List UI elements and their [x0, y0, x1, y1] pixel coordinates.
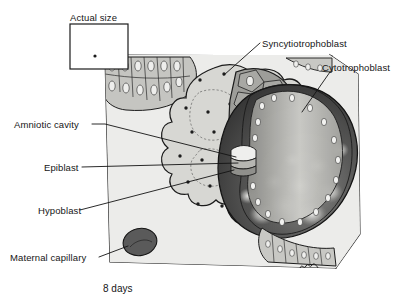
label-amniotic-cavity: Amniotic cavity — [14, 119, 79, 130]
label-epiblast: Epiblast — [44, 162, 79, 173]
label-syncytiotrophoblast: Syncytiotrophoblast — [262, 38, 347, 49]
label-hypoblast: Hypoblast — [38, 205, 81, 216]
figure-caption: 8 days — [103, 283, 132, 294]
actual-size-title: Actual size — [70, 12, 117, 23]
actual-size-dot-icon — [93, 54, 96, 57]
embryonic-disc — [231, 146, 256, 177]
amniotic-cavity-space — [231, 146, 256, 162]
actual-size-inset — [70, 24, 128, 69]
actual-size-box — [70, 24, 128, 69]
implantation-figure: Actual size Syncytiotrophoblast Cytotrop… — [0, 0, 414, 302]
label-cytotrophoblast: Cytotrophoblast — [322, 62, 390, 73]
label-maternal-capillary: Maternal capillary — [10, 252, 86, 263]
